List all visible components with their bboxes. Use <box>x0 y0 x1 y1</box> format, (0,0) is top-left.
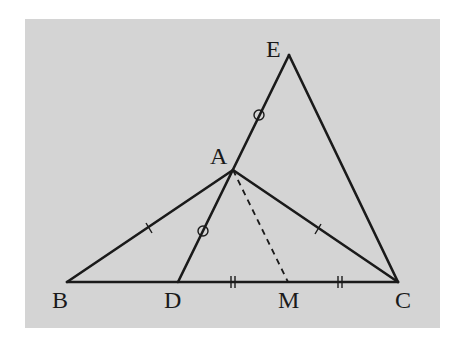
geometry-figure: E A B D M C <box>0 0 464 347</box>
point-label-m: M <box>278 287 299 313</box>
point-label-a: A <box>210 143 228 169</box>
point-label-c: C <box>395 287 411 313</box>
point-label-e: E <box>266 36 281 62</box>
point-label-d: D <box>164 287 181 313</box>
point-label-b: B <box>52 287 68 313</box>
